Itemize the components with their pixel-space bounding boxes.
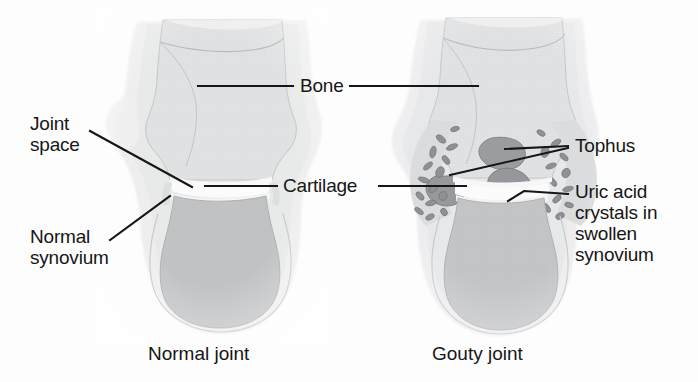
- label-uric-acid-crystals: Uric acid crystals in swollen synovium: [575, 181, 657, 265]
- label-bone: Bone: [300, 75, 344, 96]
- label-joint-space: Joint space: [30, 113, 80, 155]
- label-normal-synovium: Normal synovium: [30, 226, 109, 268]
- caption-gouty-joint: Gouty joint: [432, 343, 523, 364]
- gouty-joint-illustration: [380, 6, 620, 346]
- label-tophus: Tophus: [575, 135, 635, 156]
- figure-canvas: Bone Joint space Cartilage Normal synovi…: [0, 0, 698, 382]
- label-cartilage: Cartilage: [283, 175, 357, 196]
- caption-normal-joint: Normal joint: [148, 343, 249, 364]
